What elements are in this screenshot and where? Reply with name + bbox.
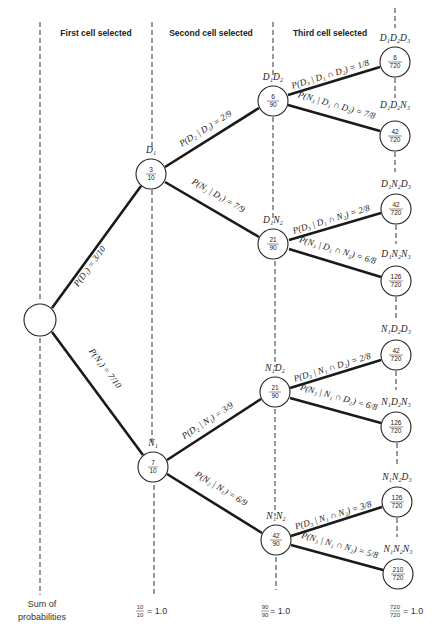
node-n1n2d3: N₁N₂D₃ 126 720 <box>381 472 412 517</box>
node-numerator: 126 <box>391 273 402 280</box>
node-label: D₁N₂N₃ <box>380 249 410 259</box>
node-label: D₁D₂D₃ <box>379 33 411 43</box>
node-denominator: 720 <box>390 136 401 143</box>
sum-denominator: 720 <box>390 612 401 618</box>
node-denominator: 90 <box>269 101 277 108</box>
header-first-cell: First cell selected <box>60 28 131 38</box>
node-numerator: 6 <box>271 93 275 100</box>
footer-sum-second: 90 90 = 1.0 <box>261 604 290 618</box>
sum-equals: = 1.0 <box>270 606 290 616</box>
sum-numerator: 90 <box>262 604 269 610</box>
root-node <box>24 304 56 336</box>
node-d1n2d3: D₁N₂D₃ 42 720 <box>380 179 411 224</box>
node-label: D₁D₂ <box>262 72 284 82</box>
node-n1: N₁ 7 10 <box>138 438 168 482</box>
node-denominator: 720 <box>391 209 402 216</box>
node-label: N₁N₂ <box>265 511 286 521</box>
sum-equals: = 1.0 <box>403 606 423 616</box>
sum-denominator: 90 <box>262 612 269 618</box>
probability-tree-diagram: First cell selected Second cell selected… <box>0 0 432 631</box>
node-numerator: 3 <box>149 166 153 173</box>
node-numerator: 42 <box>391 128 399 135</box>
node-denominator: 720 <box>391 281 402 288</box>
node-numerator: 42 <box>392 201 400 208</box>
node-label: D₁N₂ <box>262 215 283 225</box>
edge-label-p-d3-given-n1n2: P(D₃ | N₁ ∩ N₂) = 3/8 <box>293 499 373 532</box>
edge-label-p-n1: P(N₁) = 7/10 <box>87 346 124 391</box>
header-third-cell: Third cell selected <box>293 28 367 38</box>
node-numerator: 42 <box>392 347 400 354</box>
header-second-cell: Second cell selected <box>169 28 253 38</box>
node-d1d2: D₁D₂ 6 90 <box>258 72 288 116</box>
edge-label-p-d1: P(D₁) = 3/10 <box>71 244 108 290</box>
node-numerator: 21 <box>269 236 277 243</box>
node-n1d2d3: N₁D₂D₃ 42 720 <box>380 324 411 370</box>
node-denominator: 90 <box>272 540 280 547</box>
node-label: D₁D₂N₃ <box>379 100 410 110</box>
node-denominator: 720 <box>393 574 404 581</box>
footer-sum-third: 720 720 = 1.0 <box>390 604 423 618</box>
node-numerator: 42 <box>272 532 280 539</box>
node-denominator: 720 <box>391 355 402 362</box>
edge-label-p-n3-given-n1n2: P(N₃ | N₁ ∩ N₂) = 5/8 <box>299 530 379 560</box>
node-numerator: 210 <box>393 566 404 573</box>
sum-numerator: 10 <box>137 604 144 610</box>
sum-denominator: 10 <box>137 612 144 618</box>
edge-label-p-n3-given-d1d2: P(N₃ | D₁ ∩ D₂) = 7/8 <box>296 89 377 121</box>
node-numerator: 7 <box>151 459 155 466</box>
footer-label: probabilities <box>18 612 67 622</box>
node-denominator: 720 <box>390 62 401 69</box>
node-denominator: 720 <box>391 427 402 434</box>
edge-d1-d1d2 <box>165 108 259 167</box>
edge-label-p-n3-given-n1d2: P(N₃ | N₁ ∩ D₂) = 6/8 <box>298 382 379 413</box>
node-label: N₁N₂N₃ <box>383 544 413 554</box>
node-numerator: 126 <box>391 419 402 426</box>
node-d1: D₁ 3 10 <box>136 145 166 189</box>
node-label: D₁N₂D₃ <box>380 179 411 189</box>
node-numerator: 21 <box>271 384 279 391</box>
node-label: N₁N₂D₃ <box>381 472 411 482</box>
node-label: D₁ <box>145 145 156 155</box>
node-label: N₁D₂ <box>264 363 285 373</box>
sum-numerator: 720 <box>390 604 401 610</box>
node-denominator: 90 <box>271 392 279 399</box>
node-d1n2: D₁N₂ 21 90 <box>258 215 288 259</box>
node-d1d2d3: D₁D₂D₃ 6 720 <box>379 33 411 77</box>
node-d1d2n3: D₁D₂N₃ 42 720 <box>379 100 410 151</box>
footer-label: Sum of <box>28 599 57 609</box>
edge-label-p-n3-given-d1n2: P(N₃ | D₁ ∩ N₂) = 6/8 <box>297 234 378 266</box>
node-numerator: 6 <box>393 54 397 61</box>
node-denominator: 720 <box>392 502 403 509</box>
node-denominator: 10 <box>147 174 155 181</box>
node-denominator: 10 <box>149 467 157 474</box>
node-d1n2n3: D₁N₂N₃ 126 720 <box>380 249 411 296</box>
edge-label-p-n2-given-d1: P(N₂ | D₁) = 7/9 <box>189 176 247 215</box>
node-n1d2: N₁D₂ 21 90 <box>260 363 290 407</box>
edge-n1-n1d2 <box>167 399 261 460</box>
node-numerator: 126 <box>392 494 403 501</box>
node-n1n2n3: N₁N₂N₃ 210 720 <box>383 544 413 589</box>
node-label: N₁D₂D₃ <box>380 324 411 334</box>
node-n1d2n3: N₁D₂N₃ 126 720 <box>380 397 411 442</box>
edge-label-p-n2-given-n1: P(N₂ | N₁) = 6/9 <box>193 468 250 508</box>
node-n1n2: N₁N₂ 42 90 <box>261 511 291 555</box>
node-label: N₁D₂N₃ <box>380 397 410 407</box>
node-label: N₁ <box>147 438 158 448</box>
sum-equals: = 1.0 <box>147 606 167 616</box>
footer-sum-first: 10 10 = 1.0 <box>136 604 167 618</box>
node-denominator: 90 <box>269 244 277 251</box>
